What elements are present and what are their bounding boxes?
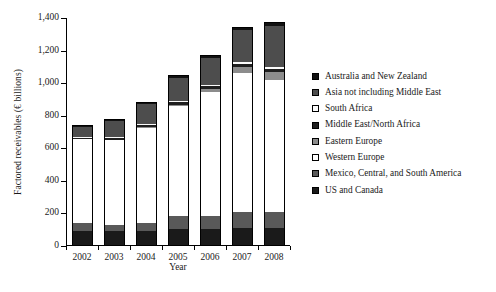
x-tick-label-2003: 2003 [105, 252, 124, 262]
bar-segment [232, 228, 253, 246]
bar-segment [72, 231, 93, 246]
bar-segment [200, 58, 221, 85]
bar-segment [136, 104, 157, 124]
chart-legend: Australia and New ZealandAsia not includ… [312, 68, 494, 198]
y-tick-label: 800 [45, 111, 59, 121]
x-tick-mark [226, 246, 227, 250]
legend-item-4: Eastern Europe [312, 133, 494, 149]
bar-segment [168, 106, 189, 216]
bar-segment [104, 121, 125, 137]
y-axis-title: Factored receivables (€ billions) [13, 32, 23, 232]
x-tick-mark [290, 246, 291, 250]
bar-segment [200, 216, 221, 229]
y-tick-mark [61, 116, 66, 117]
bar-segment [136, 128, 157, 223]
bar-segment [72, 139, 93, 223]
x-tick-mark [258, 246, 259, 250]
legend-label: Eastern Europe [325, 137, 382, 146]
legend-swatch-icon [312, 73, 319, 80]
legend-swatch-icon [312, 122, 319, 129]
bar-segment [264, 26, 285, 67]
y-tick-mark [61, 148, 66, 149]
x-tick-mark [162, 246, 163, 250]
y-tick-label: 1,200 [38, 46, 59, 56]
y-tick-label: 600 [45, 144, 59, 154]
bar-segment [200, 92, 221, 215]
bar-segment [136, 223, 157, 231]
y-tick-label: 200 [45, 209, 59, 219]
bar-2004 [136, 102, 157, 246]
y-tick-label: 1,000 [38, 78, 59, 88]
plot-area: 02004006008001,0001,2001,400 20022003200… [66, 18, 290, 246]
legend-swatch-icon [312, 154, 319, 161]
x-tick-label-2004: 2004 [137, 252, 156, 262]
bar-segment [264, 72, 285, 80]
bar-2006 [200, 55, 221, 246]
legend-label: Australia and New Zealand [325, 72, 427, 81]
legend-swatch-icon [312, 105, 319, 112]
legend-item-2: South Africa [312, 101, 494, 117]
bar-segment [168, 216, 189, 229]
x-tick-label-2008: 2008 [265, 252, 284, 262]
legend-item-7: US and Canada [312, 182, 494, 198]
bar-2008 [264, 22, 285, 246]
bar-segment [264, 228, 285, 246]
bar-segment [104, 140, 125, 226]
bar-segment [104, 231, 125, 246]
x-tick-mark [98, 246, 99, 250]
bar-2005 [168, 75, 189, 246]
legend-item-6: Mexico, Central, and South America [312, 166, 494, 182]
x-tick-mark [194, 246, 195, 250]
bar-segment [264, 80, 285, 211]
bar-segment [72, 127, 93, 137]
x-tick-label-2006: 2006 [201, 252, 220, 262]
legend-swatch-icon [312, 89, 319, 96]
legend-label: Middle East/North Africa [325, 120, 420, 129]
bar-2002 [72, 125, 93, 246]
legend-item-1: Asia not including Middle East [312, 84, 494, 100]
y-tick-mark [61, 18, 66, 19]
bar-segment [232, 212, 253, 227]
legend-item-3: Middle East/North Africa [312, 117, 494, 133]
bar-segment [168, 78, 189, 101]
x-axis-title: Year [66, 262, 290, 272]
x-tick-label-2005: 2005 [169, 252, 188, 262]
legend-label: Mexico, Central, and South America [325, 169, 461, 178]
y-tick-label: 400 [45, 176, 59, 186]
bar-segment [264, 212, 285, 228]
legend-item-5: Western Europe [312, 149, 494, 165]
x-tick-label-2007: 2007 [233, 252, 252, 262]
x-tick-mark [130, 246, 131, 250]
y-tick-mark [61, 181, 66, 182]
legend-swatch-icon [312, 138, 319, 145]
bar-segment [136, 231, 157, 246]
y-tick-mark [61, 83, 66, 84]
bar-2003 [104, 119, 125, 246]
bar-2007 [232, 27, 253, 246]
y-tick-label: 0 [54, 241, 59, 251]
x-tick-label-2002: 2002 [73, 252, 92, 262]
legend-item-0: Australia and New Zealand [312, 68, 494, 84]
bar-segment [200, 229, 221, 246]
bar-segment [232, 30, 253, 62]
legend-swatch-icon [312, 170, 319, 177]
y-axis-line [66, 18, 67, 246]
legend-label: Western Europe [325, 153, 384, 162]
bar-segment [232, 73, 253, 213]
y-tick-mark [61, 213, 66, 214]
legend-swatch-icon [312, 187, 319, 194]
x-tick-mark [66, 246, 67, 250]
bar-segment [168, 229, 189, 246]
legend-label: South Africa [325, 104, 372, 113]
y-tick-label: 1,400 [38, 13, 59, 23]
legend-label: Asia not including Middle East [325, 88, 441, 97]
y-tick-mark [61, 51, 66, 52]
stacked-bar-chart-figure: Factored receivables (€ billions) 020040… [0, 0, 496, 292]
legend-label: US and Canada [325, 186, 383, 195]
bar-segment [72, 223, 93, 230]
